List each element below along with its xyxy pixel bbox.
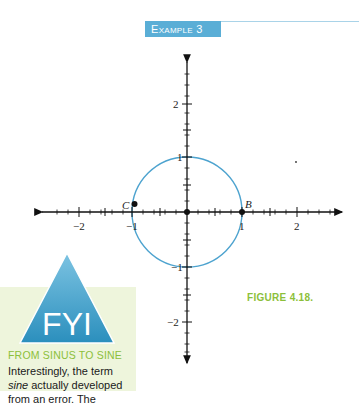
fyi-body-pre: Interestingly, the term bbox=[8, 365, 113, 377]
fyi-badge: FYI bbox=[0, 0, 140, 391]
y-tick-label: 2 bbox=[173, 98, 179, 110]
fyi-subtitle: FROM SINUS TO SINE bbox=[8, 349, 122, 361]
point-label-b: B bbox=[245, 198, 252, 210]
fyi-badge-text: FYI bbox=[42, 306, 92, 342]
y-tick-label: 1 bbox=[177, 151, 183, 163]
y-tick-label: −1 bbox=[171, 261, 183, 273]
stray-dot bbox=[295, 161, 297, 163]
x-tick-label: 2 bbox=[294, 220, 300, 232]
x-tick-label: 1 bbox=[239, 220, 245, 232]
fyi-body-italic: sine bbox=[8, 379, 28, 391]
origin-point bbox=[184, 209, 190, 215]
y-tick-label: −2 bbox=[167, 316, 179, 328]
figure-caption: FIGURE 4.18. bbox=[247, 292, 313, 303]
fyi-body-text: Interestingly, the term sine actually de… bbox=[8, 364, 136, 406]
point-b bbox=[239, 209, 245, 215]
